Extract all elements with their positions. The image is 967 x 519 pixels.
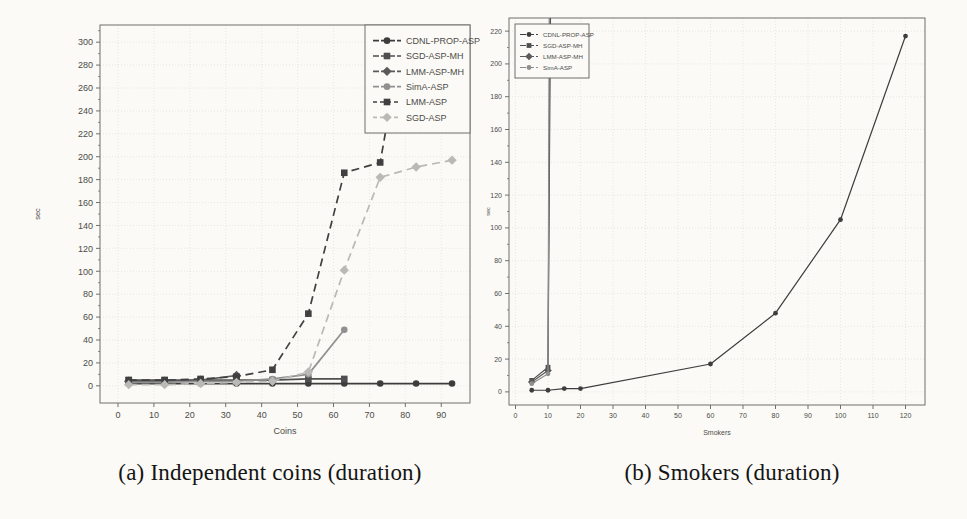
legend-label: SimA-ASP xyxy=(406,82,449,92)
circle-marker xyxy=(773,311,778,316)
square-marker xyxy=(384,99,391,106)
x-tick-label: 30 xyxy=(221,410,231,420)
y-tick-label: 140 xyxy=(490,159,502,166)
square-marker xyxy=(341,376,348,383)
x-tick-label: 70 xyxy=(364,410,374,420)
legend-label: LMM-ASP-MH xyxy=(543,53,583,60)
legend-label: CDNL-PROP-ASP xyxy=(543,31,594,38)
circle-marker xyxy=(578,386,583,391)
circle-marker xyxy=(562,386,567,391)
circle-marker xyxy=(529,381,534,386)
y-tick-label: 80 xyxy=(83,289,93,299)
x-tick-label: 80 xyxy=(400,410,410,420)
y-tick-label: 120 xyxy=(78,244,93,254)
y-tick-label: 280 xyxy=(78,60,93,70)
square-marker xyxy=(269,366,276,373)
x-tick-label: 60 xyxy=(707,412,715,419)
diamond-marker xyxy=(340,265,349,274)
legend: CDNL-PROP-ASPSGD-ASP-MHLMM-ASP-MHSimA-AS… xyxy=(515,24,594,78)
y-tick-label: 200 xyxy=(78,152,93,162)
x-tick-label: 120 xyxy=(900,412,912,419)
y-tick-label: 300 xyxy=(78,37,93,47)
circle-marker xyxy=(384,37,391,44)
circle-marker xyxy=(546,388,551,393)
legend-label: SimA-ASP xyxy=(543,64,572,71)
y-axis-title: sec xyxy=(485,207,491,216)
y-tick-label: 20 xyxy=(83,358,93,368)
x-tick-label: 20 xyxy=(185,410,195,420)
x-tick-label: 110 xyxy=(867,412,878,419)
square-marker xyxy=(377,159,384,166)
legend-label: SGD-ASP-MH xyxy=(406,51,464,61)
y-tick-label: 20 xyxy=(494,356,502,363)
x-tick-label: 90 xyxy=(436,410,446,420)
x-tick-label: 40 xyxy=(257,410,267,420)
y-tick-label: 220 xyxy=(490,28,502,35)
y-tick-label: 200 xyxy=(490,60,502,67)
series-CDNL-PROP-ASP xyxy=(529,34,908,393)
legend-label: LMM-ASP-MH xyxy=(406,67,464,77)
caption-independent-coins: (a) Independent coins (duration) xyxy=(100,460,440,486)
circle-marker xyxy=(384,83,391,90)
diamond-marker xyxy=(546,0,554,2)
y-tick-label: 180 xyxy=(78,175,93,185)
y-tick-label: 260 xyxy=(78,83,93,93)
circle-marker xyxy=(903,34,908,39)
y-axis-title: sec xyxy=(33,208,42,220)
y-tick-label: 0 xyxy=(88,381,93,391)
y-tick-label: 40 xyxy=(494,323,502,330)
y-axis: 020406080100120140160180200220sec xyxy=(485,28,509,396)
chart-independent-coins: 0102030405060708090Coins0204060801001201… xyxy=(28,5,480,447)
y-axis: 0204060801001201401601802002202402602803… xyxy=(33,31,100,391)
x-tick-label: 60 xyxy=(328,410,338,420)
legend-label: SGD-ASP xyxy=(406,113,447,123)
circle-marker xyxy=(413,380,420,387)
y-tick-label: 240 xyxy=(78,106,93,116)
circle-marker xyxy=(547,0,552,1)
x-axis: 0102030405060708090100110120Smokers xyxy=(514,405,912,436)
y-tick-label: 80 xyxy=(494,257,502,264)
square-marker xyxy=(341,169,348,176)
y-tick-label: 180 xyxy=(490,93,502,100)
x-tick-label: 50 xyxy=(674,412,682,419)
y-tick-label: 220 xyxy=(78,129,93,139)
y-tick-label: 100 xyxy=(490,224,502,231)
x-axis-title: Coins xyxy=(273,426,297,436)
x-axis-title: Smokers xyxy=(703,429,731,436)
square-marker xyxy=(384,53,391,60)
x-tick-label: 10 xyxy=(149,410,159,420)
x-tick-label: 0 xyxy=(115,410,120,420)
diamond-marker xyxy=(411,162,420,171)
x-tick-label: 0 xyxy=(514,412,518,419)
circle-marker xyxy=(529,388,534,393)
y-tick-label: 120 xyxy=(490,192,502,199)
chart-smokers: 0102030405060708090100110120Smokers02040… xyxy=(485,0,963,447)
caption-smokers: (b) Smokers (duration) xyxy=(572,460,892,486)
x-tick-label: 70 xyxy=(739,412,747,419)
x-axis: 0102030405060708090Coins xyxy=(115,403,446,436)
y-tick-label: 60 xyxy=(83,312,93,322)
figure-page: 0102030405060708090Coins0204060801001201… xyxy=(0,0,967,519)
circle-marker xyxy=(838,217,843,222)
circle-marker xyxy=(377,380,384,387)
y-tick-label: 0 xyxy=(498,388,502,395)
x-tick-label: 90 xyxy=(804,412,812,419)
x-tick-label: 10 xyxy=(544,412,552,419)
circle-marker xyxy=(527,32,532,37)
x-tick-label: 30 xyxy=(609,412,617,419)
legend-label: CDNL-PROP-ASP xyxy=(406,36,480,46)
x-tick-label: 100 xyxy=(835,412,847,419)
y-tick-label: 100 xyxy=(78,267,93,277)
square-marker xyxy=(305,310,312,317)
square-marker xyxy=(527,43,532,48)
y-tick-label: 160 xyxy=(78,198,93,208)
circle-marker xyxy=(546,371,551,376)
legend: CDNL-PROP-ASPSGD-ASP-MHLMM-ASP-MHSimA-AS… xyxy=(365,25,480,133)
y-tick-label: 60 xyxy=(494,290,502,297)
legend-label: SGD-ASP-MH xyxy=(543,42,583,49)
series-SGD-ASP xyxy=(124,155,457,389)
x-tick-label: 40 xyxy=(642,412,650,419)
diamond-marker xyxy=(375,173,384,182)
circle-marker xyxy=(449,380,456,387)
circle-marker xyxy=(708,362,713,367)
